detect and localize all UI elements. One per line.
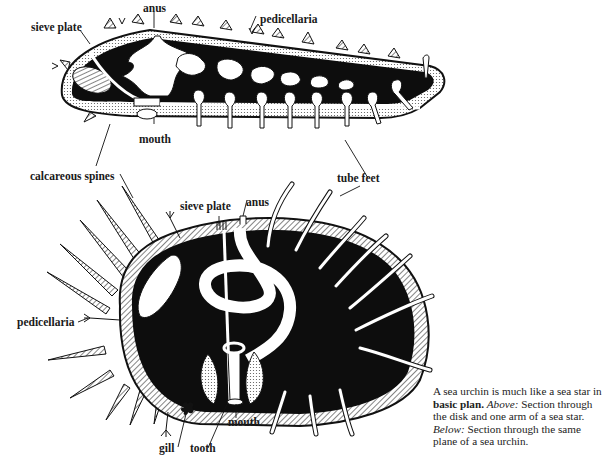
caption-italic-below: Below: (433, 423, 465, 435)
sea-urchin-label-gill: gill (159, 442, 174, 455)
caption-text-1: A sea urchin is much like a sea star in (433, 385, 602, 397)
sea-urchin-label-sieve-plate: sieve plate (180, 200, 231, 213)
sea-urchin-label-tooth: tooth (190, 442, 216, 454)
sea-urchin-label-pedicellaria: pedicellaria (17, 316, 75, 329)
sea-star-label-calcareous-spines: calcareous spines (30, 170, 115, 183)
sea-urchin-esophagus (228, 352, 240, 400)
sea-urchin-anus (240, 216, 246, 224)
caption-bold: basic plan. (433, 398, 484, 410)
sea-urchin-label-anus: anus (246, 196, 270, 208)
sea-star-ring-canal (134, 98, 160, 106)
sea-star-label-mouth: mouth (139, 133, 172, 145)
sea-star-label-tube-feet: tube feet (337, 172, 380, 184)
sea-star-label-anus: anus (143, 2, 167, 14)
sea-star-label-pedicellaria: pedicellaria (260, 13, 318, 26)
figure-caption: A sea urchin is much like a sea star in … (433, 385, 605, 448)
sea-star-mouth (137, 109, 157, 119)
sea-urchin-label-mouth: mouth (228, 416, 261, 428)
caption-italic-above: Above: (487, 398, 519, 410)
sea-star-label-sieve-plate: sieve plate (31, 21, 82, 34)
sea-star-section (52, 12, 444, 178)
sea-urchin-mouth (227, 399, 243, 405)
sea-urchin-section (47, 174, 432, 448)
